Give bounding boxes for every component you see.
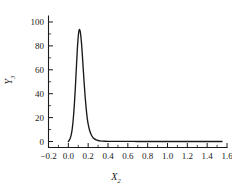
- x-axis-title: X2: [110, 171, 121, 184]
- chart-figure: −0.20.00.20.40.60.81.01.21.41.6 02040608…: [0, 0, 232, 189]
- x-tick-label: 1.2: [182, 151, 193, 161]
- data-curve: [68, 29, 222, 141]
- chart-plot-area: −0.20.00.20.40.60.81.01.21.41.6 02040608…: [0, 0, 232, 189]
- x-tick-label: 1.6: [221, 151, 232, 161]
- x-tick-label: 0.8: [142, 151, 154, 161]
- x-tick-label: −0.2: [40, 151, 56, 161]
- y-axis-title-subscript: 3: [9, 75, 16, 80]
- y-axis-ticks: [49, 22, 54, 142]
- y-tick-label: 40: [35, 89, 45, 99]
- x-tick-label: 0.4: [102, 151, 114, 161]
- chart-series: [68, 29, 222, 141]
- y-axis-title: Y3: [3, 75, 16, 85]
- y-tick-label: 0: [40, 137, 45, 147]
- x-tick-label: 1.4: [202, 151, 214, 161]
- y-tick-label: 80: [35, 41, 45, 51]
- x-axis-title-subscript: 2: [117, 177, 121, 184]
- x-axis-ticks: [49, 143, 228, 148]
- y-axis-tick-labels: 020406080100: [31, 17, 45, 147]
- x-tick-label: 0.0: [63, 151, 75, 161]
- svg-text:X2: X2: [110, 171, 121, 184]
- y-tick-label: 20: [35, 113, 45, 123]
- svg-text:Y3: Y3: [3, 75, 16, 85]
- x-tick-label: 1.0: [162, 151, 174, 161]
- y-tick-label: 60: [35, 65, 45, 75]
- x-tick-label: 0.2: [83, 151, 94, 161]
- y-tick-label: 100: [31, 17, 45, 27]
- x-axis-tick-labels: −0.20.00.20.40.60.81.01.21.41.6: [40, 151, 232, 161]
- x-tick-label: 0.6: [122, 151, 134, 161]
